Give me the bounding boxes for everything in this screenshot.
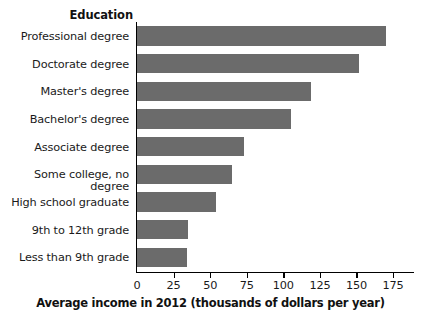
tick-label: 100 xyxy=(273,279,294,292)
bar-row xyxy=(137,161,415,189)
bar xyxy=(137,137,244,157)
category-label: High school graduate xyxy=(0,197,129,209)
category-label: Master's degree xyxy=(0,86,129,98)
bar-row xyxy=(137,106,415,134)
x-axis-ticks: 0255075100125150175 xyxy=(137,273,415,289)
tick-label: 50 xyxy=(203,279,217,292)
tick-label: 0 xyxy=(134,279,141,292)
category-label: Professional degree xyxy=(0,31,129,43)
category-label: Doctorate degree xyxy=(0,59,129,71)
bar xyxy=(137,82,311,102)
bar xyxy=(137,248,187,268)
bar xyxy=(137,26,386,46)
tick-mark xyxy=(210,273,211,278)
bar-row xyxy=(137,244,415,272)
category-label: Less than 9th grade xyxy=(0,252,129,264)
bar-row xyxy=(137,23,415,51)
bar-row xyxy=(137,134,415,162)
tick-mark xyxy=(393,273,394,278)
category-label: Bachelor's degree xyxy=(0,114,129,126)
bar-series xyxy=(137,23,415,272)
category-label: Some college, no degree xyxy=(0,169,129,193)
category-axis-title: Education xyxy=(0,8,133,22)
tick-mark xyxy=(356,273,357,278)
income-by-education-bar-chart: Education Professional degreeDoctorate d… xyxy=(0,0,421,317)
category-label: Associate degree xyxy=(0,142,129,154)
tick-label: 25 xyxy=(167,279,181,292)
bar xyxy=(137,109,291,129)
value-axis-title: Average income in 2012 (thousands of dol… xyxy=(0,296,421,310)
category-label: 9th to 12th grade xyxy=(0,225,129,237)
tick-mark xyxy=(247,273,248,278)
tick-label: 175 xyxy=(383,279,404,292)
bar xyxy=(137,165,232,185)
tick-label: 75 xyxy=(240,279,254,292)
bar-row xyxy=(137,189,415,217)
bar xyxy=(137,192,216,212)
tick-label: 150 xyxy=(346,279,367,292)
bar-row xyxy=(137,78,415,106)
category-label-list: Professional degreeDoctorate degreeMaste… xyxy=(0,23,133,272)
tick-mark xyxy=(320,273,321,278)
bar-row xyxy=(137,217,415,245)
tick-label: 125 xyxy=(309,279,330,292)
bar xyxy=(137,54,359,74)
bar xyxy=(137,220,188,240)
tick-mark xyxy=(283,273,284,278)
tick-mark xyxy=(174,273,175,278)
bar-row xyxy=(137,51,415,79)
